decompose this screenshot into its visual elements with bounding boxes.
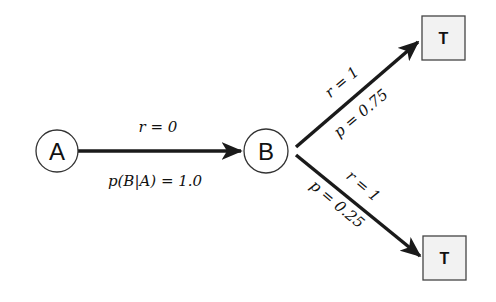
- node-a-label: A: [49, 138, 65, 165]
- edge-b-to-t2: r = 1 p = 0.25: [296, 155, 420, 256]
- edge-a-b-prob: p(B|A) = 1.0: [108, 172, 203, 190]
- node-a: A: [36, 130, 78, 172]
- arrow-b-t1: [296, 42, 418, 147]
- edge-a-to-b: r = 0 p(B|A) = 1.0: [78, 118, 241, 190]
- node-b-label: B: [258, 138, 274, 165]
- edge-b-to-t1: r = 1 p = 0.75: [296, 42, 418, 147]
- diagram-canvas: r = 0 p(B|A) = 1.0 r = 1 p = 0.75 r = 1 …: [0, 0, 496, 302]
- terminal-top-label: T: [439, 30, 449, 47]
- edge-a-b-reward: r = 0: [139, 118, 178, 136]
- terminal-node-bottom: T: [423, 236, 466, 280]
- terminal-bottom-label: T: [440, 250, 450, 267]
- terminal-node-top: T: [422, 16, 465, 60]
- node-b: B: [244, 129, 288, 173]
